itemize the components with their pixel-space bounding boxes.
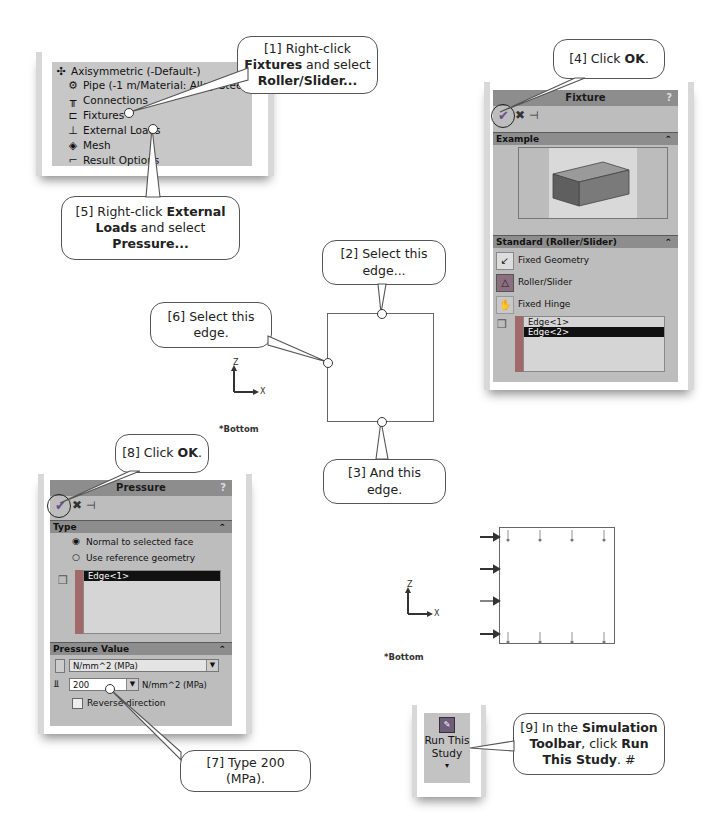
callout-step-4: [4] Click OK. [553, 39, 665, 79]
run-study-icon: ✎ [439, 717, 455, 733]
pressure-value-section-header[interactable]: Pressure Value⌃ [50, 642, 232, 655]
pressure-property-manager: Pressure? ✔ ✖ ⊣ Type⌃ ◉ Normal to select… [50, 480, 232, 726]
selection-faces-icon: ❒ [497, 318, 507, 331]
pushpin-icon[interactable]: ⊣ [86, 499, 96, 512]
fixture-title: Fixture? [493, 90, 678, 106]
callout-step-9: [9] In the Simulation Toolbar, click Run… [513, 713, 665, 775]
cancel-x-icon[interactable]: ✖ [515, 108, 525, 122]
pressure-selection-list[interactable]: Edge<1> [83, 570, 221, 634]
view-orientation-label: *Bottom [219, 424, 259, 434]
mesh-icon: ◈ [66, 138, 80, 153]
pressure-value-icon: ⫫ [53, 678, 59, 690]
standard-section-header[interactable]: Standard (Roller/Slider)⌃ [493, 235, 678, 248]
tree-item-pipe[interactable]: ⚙Pipe (-1 m/Material: Alloy Steel-) [66, 78, 253, 93]
pressure-arrow-icon [480, 534, 499, 637]
fixture-selection-list[interactable]: Edge<1> Edge<2> [523, 316, 665, 372]
dropdown-arrow-icon[interactable]: ▼ [126, 679, 138, 690]
units-dropdown[interactable]: N/mm^2 (MPa) ▼ [69, 659, 219, 672]
pushpin-icon[interactable]: ⊣ [529, 109, 539, 122]
callout-step-7: [7] Type 200 (MPa). [180, 750, 311, 792]
help-icon[interactable]: ? [666, 90, 672, 106]
callout-step-2: [2] Select this edge... [322, 240, 446, 285]
selection-color-bar [75, 570, 83, 634]
list-item[interactable]: Edge<1> [524, 317, 664, 327]
triad: Z X [228, 362, 268, 398]
radio-selected-icon[interactable]: ◉ [72, 536, 80, 546]
pointer-dot [105, 684, 115, 694]
option-fixed-hinge[interactable]: ✋ Fixed Hinge [496, 296, 666, 314]
simulation-tree: ✣Axisymmetric (-Default-) ⚙Pipe (-1 m/Ma… [52, 62, 252, 166]
fixed-geometry-icon: ↙ [496, 252, 514, 270]
dropdown-arrow-icon[interactable]: ▼ [206, 660, 218, 671]
run-this-study-button[interactable]: ✎ Run This Study ▾ [424, 713, 470, 783]
ok-highlight-circle [491, 104, 515, 128]
callout-step-6: [6] Select this edge. [150, 302, 272, 348]
tree-item-fixtures[interactable]: ⊏Fixtures [66, 108, 124, 123]
option-fixed-geometry[interactable]: ↙ Fixed Geometry [496, 252, 666, 270]
selection-faces-icon: ❒ [58, 574, 68, 587]
pointer-dot [377, 309, 387, 319]
dropdown-arrow-icon[interactable]: ▾ [424, 760, 470, 772]
ok-highlight-circle [47, 494, 71, 518]
load-symbols [470, 520, 620, 650]
roller-slider-icon: △ [496, 274, 514, 292]
collapse-chevron-icon[interactable]: ⌃ [218, 643, 226, 656]
pointer-dot [148, 124, 158, 134]
list-item-selected[interactable]: Edge<2> [524, 327, 664, 337]
example-section-header[interactable]: Example⌃ [493, 132, 678, 145]
help-icon[interactable]: ? [220, 480, 226, 496]
units-icon [55, 659, 65, 673]
fixtures-icon: ⊏ [66, 108, 80, 123]
callout-step-3: [3] And this edge. [323, 459, 446, 504]
pressure-value-input[interactable]: 200 ▼ [69, 678, 139, 691]
callout-step-5: [5] Right-click External Loads and selec… [61, 196, 240, 260]
model-square-top[interactable] [327, 313, 434, 422]
radio-reference-geometry[interactable]: ○ Use reference geometry [72, 552, 227, 565]
pointer-dot [124, 108, 134, 118]
fixed-hinge-icon: ✋ [496, 296, 514, 314]
part-icon: ⚙ [66, 78, 80, 93]
radio-unselected-icon[interactable]: ○ [72, 552, 80, 562]
tree-item-study[interactable]: ✣Axisymmetric (-Default-) [54, 64, 201, 79]
pressure-title: Pressure? [50, 480, 232, 496]
tree-item-connections[interactable]: ╥Connections [66, 93, 148, 108]
cancel-x-icon[interactable]: ✖ [72, 498, 82, 512]
connections-icon: ╥ [66, 93, 80, 108]
tree-item-external-loads[interactable]: ⊥External Loads [66, 123, 161, 138]
checkbox-icon[interactable] [72, 698, 83, 709]
collapse-chevron-icon[interactable]: ⌃ [664, 133, 672, 146]
example-image [518, 147, 668, 219]
type-section-header[interactable]: Type⌃ [50, 520, 232, 533]
pointer-dot [377, 417, 387, 427]
collapse-chevron-icon[interactable]: ⌃ [664, 236, 672, 249]
roller-symbol-icon [507, 530, 605, 643]
view-orientation-label: *Bottom [384, 652, 424, 662]
selection-color-bar [515, 316, 523, 372]
collapse-chevron-icon[interactable]: ⌃ [218, 521, 226, 534]
fixture-property-manager: Fixture? ✔ ✖ ⊣ Example⌃ Standard (Roller… [493, 90, 678, 382]
pointer-dot [323, 358, 333, 368]
callout-step-8: [8] Click OK. [115, 434, 209, 473]
external-loads-icon: ⊥ [66, 123, 80, 138]
tree-item-result-options[interactable]: ⌐Result Options [66, 153, 159, 168]
reverse-direction-checkbox[interactable]: Reverse direction [72, 697, 212, 710]
list-item-selected[interactable]: Edge<1> [84, 571, 220, 581]
option-roller-slider[interactable]: △ Roller/Slider [496, 274, 666, 292]
tree-item-mesh[interactable]: ◈Mesh [66, 138, 111, 153]
box-model-icon [549, 156, 639, 212]
triad: Z X [402, 584, 442, 620]
result-options-icon: ⌐ [66, 153, 80, 168]
callout-step-1: [1] Right-click Fixtures and select Roll… [237, 36, 378, 94]
radio-normal-to-face[interactable]: ◉ Normal to selected face [72, 536, 227, 549]
study-icon: ✣ [54, 64, 68, 79]
